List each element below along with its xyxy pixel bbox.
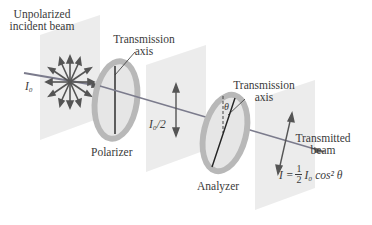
polarizer-axis-label: Transmission axis [108,33,180,57]
half-intensity-label: I₀/2 [149,118,166,130]
incident-intensity-label: I₀ [25,80,33,92]
polarizer-label: Polarizer [91,146,133,158]
polarization-diagram [0,0,372,225]
malus-law-formula: I = 1 2 I₀ cos² θ [279,164,342,185]
incident-beam-label: Unpolarized incident beam [2,8,82,32]
analyzer-label: Analyzer [197,180,239,192]
transmitted-beam-label: Transmitted beam [293,132,353,156]
analyzer-axis-label: Transmission axis [228,79,300,103]
theta-angle-label: θ [224,101,229,113]
formula-fraction: 1 2 [295,164,302,185]
